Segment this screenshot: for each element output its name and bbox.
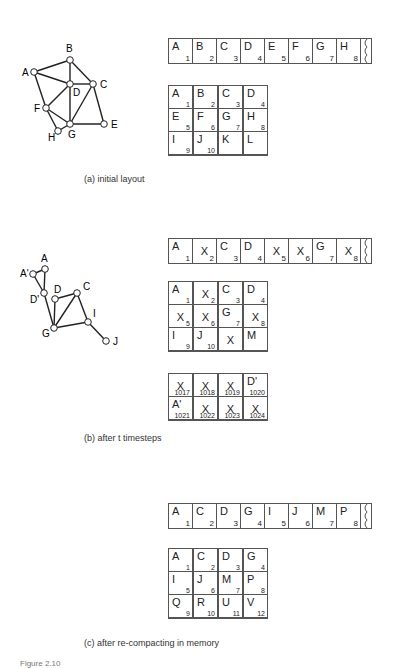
memory-cell: C3	[219, 86, 242, 109]
memory-cell: A1	[169, 239, 193, 263]
memory-cell: G4	[244, 549, 267, 572]
svg-text:A: A	[22, 67, 29, 78]
memory-cell: J10	[194, 132, 217, 155]
memory-cell: E5	[169, 109, 192, 132]
memory-cell: R10	[194, 595, 217, 618]
memory-cell: P8	[244, 572, 267, 595]
memory-cell: B2	[194, 86, 217, 109]
memory-cell: I5	[169, 572, 192, 595]
memory-cell: V12	[244, 595, 267, 618]
memory-cell: A1	[169, 504, 193, 528]
memory-cell: J6	[194, 572, 217, 595]
graph-node	[52, 296, 59, 303]
memory-cell: X5	[169, 305, 192, 328]
graph-node	[31, 69, 38, 76]
svg-text:C: C	[83, 281, 90, 292]
svg-text:B: B	[66, 43, 73, 54]
memory-cell: P8	[337, 504, 361, 528]
graph-node	[90, 81, 97, 88]
memory-cell: H8	[244, 109, 267, 132]
graph-node	[41, 290, 48, 297]
graph-node	[74, 290, 81, 297]
memory-strip-c: A1C2D3G4I5J6M7P8	[168, 503, 372, 529]
memory-cell: X5	[265, 239, 289, 263]
svg-text:F: F	[34, 103, 40, 114]
memory-cell: D4	[241, 39, 265, 63]
memory-cell: B2	[193, 39, 217, 63]
caption-c: (c) after re-compacting in memory	[84, 638, 219, 648]
memory-cell: D3	[217, 504, 241, 528]
memory-cell: X1017	[169, 374, 192, 397]
caption-a: (a) initial layout	[84, 174, 145, 184]
graph-node	[55, 128, 62, 135]
memory-cell: C3	[217, 239, 241, 263]
memory-cell: G4	[241, 504, 265, 528]
svg-text:G: G	[42, 328, 50, 339]
memory-cell: F6	[194, 109, 217, 132]
memory-cell: A1	[169, 86, 192, 109]
memory-cell: Q9	[169, 595, 192, 618]
graph-node	[103, 338, 110, 345]
memory-cell: D3	[219, 549, 242, 572]
strip-continuation	[361, 504, 371, 528]
memory-cell: C2	[194, 549, 217, 572]
memory-cell: A1	[169, 282, 192, 305]
memory-strip-a: A1B2C3D4E5F6G7H8	[168, 38, 372, 64]
svg-text:D': D'	[30, 294, 39, 305]
memory-cell: E5	[265, 39, 289, 63]
memory-cell: D4	[241, 239, 265, 263]
svg-text:D: D	[54, 284, 61, 295]
memory-cell: H8	[337, 39, 361, 63]
strip-continuation	[361, 39, 371, 63]
memory-cell: X1019	[219, 374, 242, 397]
memory-cell: J10	[194, 328, 217, 351]
memory-cell: D'1020	[244, 374, 267, 397]
memory-grid-b: A1X2C3D4X5X6G7X8I9J10XM	[168, 281, 268, 352]
memory-cell: X8	[337, 239, 361, 263]
memory-cell: X2	[193, 239, 217, 263]
graph-node	[43, 105, 50, 112]
svg-text:J: J	[113, 336, 118, 347]
graph-node	[67, 121, 74, 128]
graph-node	[42, 266, 49, 273]
memory-cell: G7	[313, 39, 337, 63]
memory-cell: J6	[289, 504, 313, 528]
graph-node	[101, 121, 108, 128]
svg-text:I: I	[93, 308, 96, 319]
graph-node	[51, 325, 58, 332]
svg-text:G: G	[68, 129, 76, 140]
svg-text:A': A'	[20, 268, 29, 279]
graph-node	[30, 271, 37, 278]
memory-cell: M	[244, 328, 267, 351]
memory-cell: X8	[244, 305, 267, 328]
memory-cell: C3	[217, 39, 241, 63]
memory-cell: I9	[169, 328, 192, 351]
svg-text:D: D	[73, 87, 80, 98]
memory-cell: X2	[194, 282, 217, 305]
memory-cell: K	[219, 132, 242, 155]
memory-cell: A'1021	[169, 397, 192, 420]
memory-cell: A1	[169, 549, 192, 572]
memory-strip-b: A1X2C3D4X5X6G7X8	[168, 238, 372, 264]
memory-cell: X6	[194, 305, 217, 328]
strip-continuation	[361, 239, 371, 263]
memory-cell: X1024	[244, 397, 267, 420]
svg-text:H: H	[48, 132, 55, 143]
memory-cell: M7	[313, 504, 337, 528]
memory-cell: X1023	[219, 397, 242, 420]
graph-node	[67, 57, 74, 64]
memory-cell: A1	[169, 39, 193, 63]
caption-b: (b) after t timesteps	[84, 433, 162, 443]
svg-text:C: C	[100, 79, 107, 90]
memory-cell: G7	[313, 239, 337, 263]
memory-cell: D4	[244, 282, 267, 305]
memory-cell: L	[244, 132, 267, 155]
memory-cell: X6	[289, 239, 313, 263]
memory-cell: U11	[219, 595, 242, 618]
memory-cell: X1022	[194, 397, 217, 420]
memory-cell: X	[219, 328, 242, 351]
svg-text:A: A	[41, 253, 48, 264]
memory-cell: C3	[219, 282, 242, 305]
graph-node	[85, 319, 92, 326]
memory-cell: D4	[244, 86, 267, 109]
